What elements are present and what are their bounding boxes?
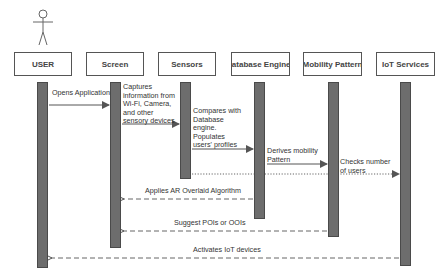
message-label-captures: Captures information from Wi-Fi, Camera,… [123,83,175,126]
label-line: Applies AR Overlaid Algorithm [145,187,241,196]
lifeline-header-database-engines: Database Engines [231,52,290,76]
message-label-checks-users: Checks number of users [340,158,390,175]
activation-bar-database-engines [254,82,265,219]
lifeline-label: USER [32,60,54,69]
message-label-derives: Derives mobility Pattern [267,147,318,164]
message-label-activates-iot: Activates IoT devices [193,246,261,255]
label-line: Activates IoT devices [193,246,261,255]
lifeline-header-iot-services: IoT Services [376,52,435,76]
lifeline-label: Mobility Pattern [303,60,362,69]
lifeline-header-mobility-pattern: Mobility Pattern [303,52,362,76]
activation-bar-mobility-pattern [328,82,339,237]
label-line: users' profiles [193,141,241,150]
lifeline-label: Screen [102,60,129,69]
label-line: sensory devices [123,117,175,126]
lifeline-header-screen: Screen [86,52,144,76]
activation-bar-user [37,82,48,268]
lifeline-header-sensors: Sensors [158,52,216,76]
message-label-applies-ar: Applies AR Overlaid Algorithm [145,187,241,196]
sequence-diagram: USER Screen Sensors Database Engines Mob… [0,0,446,280]
label-line: Opens Application [52,89,110,98]
activation-bar-sensors [180,82,191,179]
actor-stick-figure-icon [33,10,53,45]
label-line: Suggest POIs or OOIs [174,219,246,228]
activation-bar-iot-services [400,82,411,266]
lifeline-label: Sensors [171,60,203,69]
message-label-compares: Compares with Database engine. Populates… [193,107,241,150]
lifeline-label: IoT Services [382,60,429,69]
lifeline-header-user: USER [14,52,72,76]
lifeline-label: Database Engines [231,60,290,69]
label-line: Pattern [267,156,318,165]
message-label-suggest-pois: Suggest POIs or OOIs [174,219,246,228]
message-label-opens-application: Opens Application [52,89,110,98]
label-line: of users [340,167,390,176]
activation-bar-screen [110,82,121,248]
